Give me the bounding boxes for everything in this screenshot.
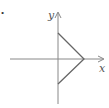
x-axis-label: x — [99, 62, 106, 75]
y-axis-label: y — [47, 9, 55, 22]
bullet-marker: • — [1, 8, 4, 18]
graph-figure: • x y — [0, 0, 109, 108]
